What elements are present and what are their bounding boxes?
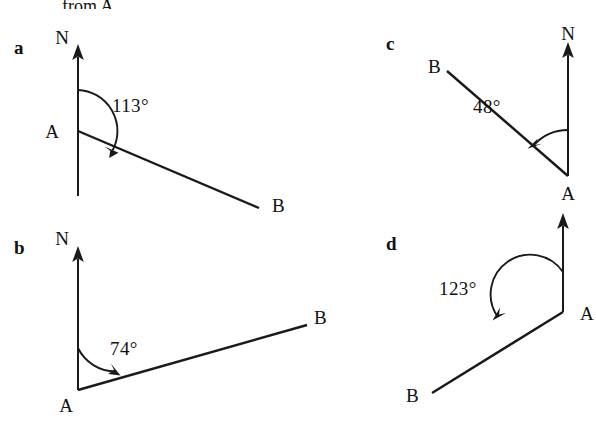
panel-d-angle-label: 123° [439, 278, 477, 299]
panel-b-endpoint-label: B [314, 307, 327, 328]
panel-b-north-arrow [72, 246, 84, 390]
panel-c-vertex-label: A [561, 183, 575, 204]
panel-c-angle-arc [528, 130, 569, 149]
panel-b-angle-label: 74° [110, 338, 138, 359]
caption-text: from A. [62, 0, 118, 16]
panel-c-ray-ab [447, 71, 568, 176]
caption-partial: from A. [62, 0, 118, 16]
panel-c-north-label: N [561, 23, 575, 44]
bearings-figure: from A. a N 113° A B [0, 0, 596, 436]
panel-c-north-arrow [562, 42, 574, 176]
panel-b-letter: b [14, 237, 25, 258]
panel-d-endpoint-label: B [406, 385, 419, 406]
panel-a-north-label: N [55, 27, 69, 48]
panel-a-ray-ab [78, 131, 259, 208]
panel-d-vertex-label: A [580, 303, 594, 324]
panel-a-angle-label: 113° [112, 95, 149, 116]
panel-d-ray-ab [432, 312, 563, 393]
panel-a: a N 113° A B [14, 27, 285, 216]
panel-d-letter: d [386, 233, 397, 254]
panel-b-north-label: N [55, 228, 69, 249]
panel-a-letter: a [14, 37, 24, 58]
figure-canvas: from A. a N 113° A B [0, 0, 596, 436]
panel-c-letter: c [386, 33, 394, 54]
panel-c-endpoint-label: B [428, 56, 441, 77]
panel-a-north-arrow [72, 44, 84, 196]
panel-d: d 123° A B [386, 213, 594, 406]
panel-b: b N 74° A B [14, 228, 327, 416]
panel-b-vertex-label: A [59, 395, 73, 416]
panel-c-angle-label: 48° [473, 96, 501, 117]
panel-c: c N 48° A B [386, 23, 575, 204]
panel-d-north-arrow [557, 213, 569, 312]
panel-a-vertex-label: A [45, 121, 59, 142]
panel-a-endpoint-label: B [272, 195, 285, 216]
panel-d-angle-arc [491, 255, 563, 321]
